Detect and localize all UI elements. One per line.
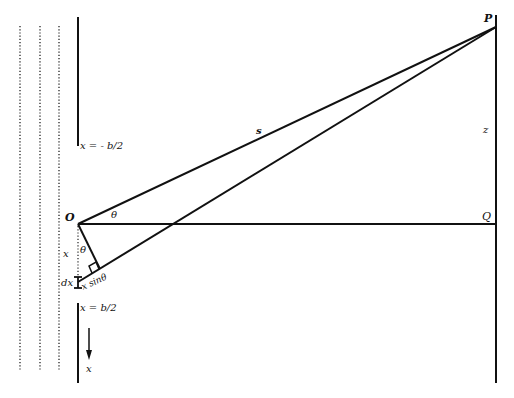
ray-O-P — [78, 27, 496, 224]
ray-dx-P — [78, 27, 496, 282]
label-P: P — [483, 12, 493, 25]
label-x-axis: x — [86, 363, 92, 374]
label-O: O — [65, 211, 75, 224]
label-z: z — [482, 124, 489, 135]
label-theta-bottom: θ — [80, 244, 86, 255]
label-top-edge: x = - b/2 — [80, 140, 123, 151]
label-x-distance: x — [63, 248, 69, 259]
label-dx: dx — [61, 277, 73, 288]
label-s: s — [256, 125, 262, 136]
x-axis-arrow — [86, 328, 92, 360]
incoming-wavefronts — [20, 26, 59, 370]
label-x-sin-theta: x sinθ — [80, 272, 109, 292]
label-Q: Q — [482, 210, 491, 223]
label-bottom-edge: x = b/2 — [80, 302, 117, 313]
label-theta-top: θ — [111, 209, 117, 220]
diffraction-diagram: P Q O s z θ θ x dx x sinθ x = - b/2 x = … — [0, 0, 514, 398]
